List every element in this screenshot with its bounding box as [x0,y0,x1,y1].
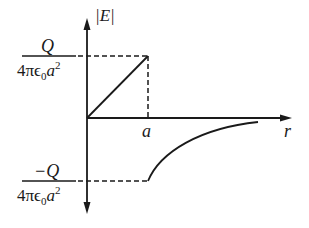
y-axis-label: |E| [95,6,115,26]
lower-den-a: a [46,186,55,205]
x-axis-label: r [284,121,291,142]
upper-den-prefix: 4π [17,61,34,80]
upper-fraction-denominator: 4πϵ0a2 [17,59,60,82]
y-axis-arrow-up-icon [84,18,91,30]
x-tick-label-a: a [142,121,151,142]
y-axis-arrow-down-icon [84,202,91,214]
upper-den-a: a [46,61,55,80]
lower-den-prefix: 4π [17,186,34,205]
lower-fraction-numerator: −Q [34,161,59,182]
upper-fraction-numerator: Q [41,36,54,57]
lower-den-sup: 2 [55,184,61,196]
lower-fraction-denominator: 4πϵ0a2 [17,184,60,207]
upper-den-epsilon: ϵ [34,61,41,80]
outside-field-curve [148,122,258,181]
upper-den-sup: 2 [55,59,61,71]
lower-den-epsilon: ϵ [34,186,41,205]
inside-field-line [87,56,148,118]
